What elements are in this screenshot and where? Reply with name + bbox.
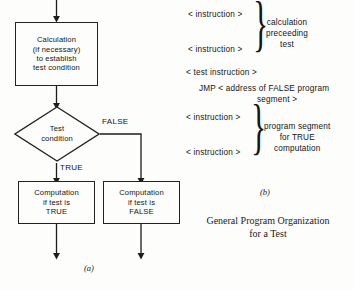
figure-page: Calculation (if necessary) to establish … [0,0,354,290]
true-segment-note: program segment for TRUE computation [264,122,330,154]
calc-note-line-1: calculation [266,18,308,29]
true-note-line-2: for TRUE [264,133,330,144]
true-note-line-1: program segment [264,122,330,133]
figure-caption: General Program Organization for a Test [188,214,348,240]
listing-line-test-instruction: < test instruction > [186,68,257,77]
listing-line-1: < instruction > [188,10,242,19]
calc-note-line-2: preceeding [266,29,308,40]
true-note-line-3: computation [264,144,330,155]
listing-line-3: < instruction > [186,113,240,122]
caption-line-1: General Program Organization [188,214,348,227]
calc-note-line-3: test [266,40,308,51]
program-listing: < instruction > < instruction > } calcul… [0,0,354,290]
part-b-label: (b) [260,187,270,197]
listing-line-2: < instruction > [188,45,242,54]
listing-line-4: < instruction > [186,148,240,157]
caption-line-2: for a Test [188,227,348,240]
calculation-group-note: calculation preceeding test [266,18,308,50]
